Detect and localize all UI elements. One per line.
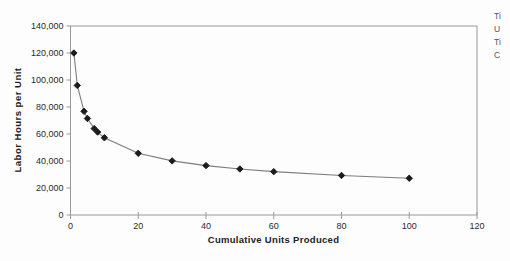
y-tick-label: 20,000 — [36, 183, 64, 193]
y-axis-title: Labor Hours per Unit — [12, 67, 23, 172]
clipped-side-text-line: Ti — [494, 36, 501, 49]
data-point-marker — [135, 150, 141, 156]
data-point-marker — [338, 172, 344, 178]
y-tick-label: 0 — [58, 210, 63, 220]
y-tick-label: 140,000 — [31, 21, 64, 31]
clipped-side-text-line: Ti — [494, 10, 501, 23]
y-tick-label: 100,000 — [31, 75, 64, 85]
data-point-marker — [71, 50, 77, 56]
series-line — [74, 53, 409, 178]
y-tick-label: 60,000 — [36, 129, 64, 139]
plot-border — [71, 26, 478, 215]
y-tick-label: 40,000 — [36, 156, 64, 166]
x-tick-label: 0 — [68, 221, 73, 231]
data-point-marker — [203, 162, 209, 168]
y-tick-label: 80,000 — [36, 102, 64, 112]
data-point-marker — [271, 168, 277, 174]
data-point-marker — [237, 166, 243, 172]
x-tick-label: 60 — [269, 221, 279, 231]
plot-area: 020,00040,00060,00080,000100,000120,0001… — [0, 0, 510, 261]
x-tick-label: 40 — [201, 221, 211, 231]
clipped-side-text-line: C — [494, 49, 501, 62]
clipped-side-text: Ti U Ti C — [494, 10, 501, 62]
y-tick-label: 120,000 — [31, 48, 64, 58]
x-tick-label: 20 — [133, 221, 143, 231]
data-point-marker — [84, 115, 90, 121]
data-point-marker — [74, 82, 80, 88]
data-point-marker — [81, 108, 87, 114]
x-tick-label: 100 — [402, 221, 417, 231]
x-axis-title: Cumulative Units Produced — [70, 234, 477, 245]
data-point-marker — [169, 158, 175, 164]
learning-curve-chart: 020,00040,00060,00080,000100,000120,0001… — [0, 0, 510, 261]
x-tick-label: 80 — [336, 221, 346, 231]
x-tick-label: 120 — [469, 221, 484, 231]
data-point-marker — [406, 175, 412, 181]
clipped-side-text-line: U — [494, 23, 501, 36]
